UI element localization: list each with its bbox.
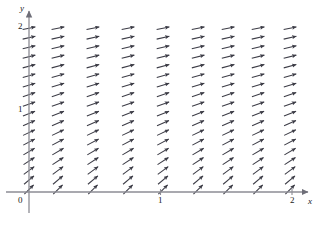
slope-segment (158, 185, 167, 194)
slope-segment (252, 111, 264, 116)
slope-segment (122, 148, 133, 155)
slope-segment (284, 65, 297, 68)
slope-segment (193, 158, 204, 165)
slope-segment (87, 27, 100, 30)
slope-segment (87, 83, 99, 87)
slope-segment (52, 55, 65, 58)
slope-segment (252, 83, 264, 87)
slope-segment (284, 102, 296, 106)
slope-segment (193, 176, 203, 184)
slope-segment (252, 55, 265, 58)
slope-field-plot (0, 0, 319, 228)
slope-segment (87, 139, 99, 145)
slope-segment (284, 46, 297, 49)
slope-segment (284, 55, 297, 58)
slope-segment (222, 139, 234, 145)
slope-segment (157, 65, 170, 68)
slope-segment (222, 83, 234, 87)
slope-segment (52, 83, 64, 87)
slope-segment (87, 74, 100, 78)
slope-segment (52, 121, 64, 126)
slope-segment (122, 121, 134, 126)
slope-segment (193, 167, 203, 175)
slope-segment (122, 83, 134, 87)
slope-segment (123, 158, 134, 165)
slope-segment (157, 55, 170, 58)
slope-segment (87, 36, 100, 39)
slope-segment (87, 55, 100, 58)
slope-segment (157, 102, 169, 106)
slope-segment (122, 36, 135, 39)
slope-segment (157, 139, 169, 145)
slope-segment (157, 27, 170, 30)
slope-segment (158, 167, 168, 175)
slope-segment (222, 74, 235, 78)
slope-segment (285, 185, 294, 194)
slope-segment (285, 176, 295, 184)
slope-segment (192, 65, 205, 68)
y-tick-label-2: 2 (18, 22, 23, 31)
slope-segment (122, 46, 135, 49)
direction-field-segments (23, 27, 297, 194)
slope-segment (157, 36, 170, 39)
slope-segment (223, 158, 234, 165)
slope-segment (122, 93, 134, 97)
x-tick-label-2: 2 (290, 196, 295, 205)
x-tick-label-1: 1 (158, 196, 163, 205)
slope-segment (284, 121, 296, 126)
slope-segment (157, 46, 170, 49)
x-axis-label: x (308, 197, 312, 206)
slope-segment (157, 148, 168, 155)
slope-segment (123, 185, 132, 194)
slope-segment (192, 93, 204, 97)
slope-segment (223, 176, 233, 184)
slope-segment (122, 102, 134, 106)
slope-segment (284, 130, 296, 136)
slope-segment (284, 148, 295, 155)
y-axis-label: y (20, 4, 24, 13)
slope-segment (87, 93, 99, 97)
slope-segment (52, 130, 64, 136)
slope-segment (122, 65, 135, 68)
slope-segment (123, 167, 133, 175)
slope-segment (223, 185, 232, 194)
slope-segment (192, 83, 204, 87)
slope-segment (52, 27, 65, 30)
slope-segment (52, 111, 64, 116)
slope-segment (252, 139, 264, 145)
origin-label: 0 (18, 196, 23, 205)
slope-segment (53, 185, 62, 194)
slope-segment (222, 93, 234, 97)
slope-segment (284, 27, 297, 30)
slope-segment (52, 158, 63, 165)
slope-segment (192, 130, 204, 136)
slope-segment (157, 74, 169, 78)
slope-segment (87, 102, 99, 106)
slope-segment (53, 167, 63, 175)
slope-segment (52, 93, 64, 97)
slope-segment (284, 93, 296, 97)
slope-segment (285, 167, 295, 175)
slope-segment (158, 176, 168, 184)
slope-segment (284, 74, 296, 78)
slope-segment (193, 148, 204, 155)
slope-segment (192, 36, 205, 39)
slope-segment (192, 111, 204, 116)
slope-segment (252, 93, 264, 97)
slope-segment (157, 121, 169, 126)
slope-segment (222, 121, 234, 126)
slope-segment (88, 185, 97, 194)
slope-segment (52, 46, 65, 49)
slope-segment (222, 36, 235, 39)
slope-segment (122, 139, 134, 145)
slope-segment (157, 83, 169, 87)
slope-segment (52, 102, 64, 106)
slope-segment (157, 111, 169, 116)
slope-segment (222, 65, 235, 68)
slope-segment (123, 176, 133, 184)
slope-segment (223, 167, 233, 175)
slope-segment (192, 55, 205, 58)
slope-segment (252, 148, 263, 155)
slope-segment (252, 130, 264, 136)
slope-segment (252, 74, 264, 78)
